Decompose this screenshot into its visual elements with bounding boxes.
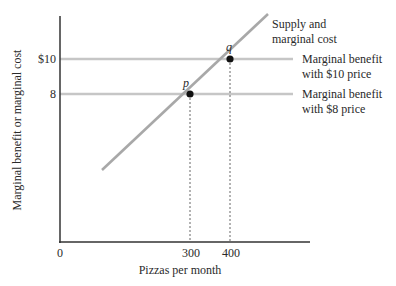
supply-label-line2: marginal cost (272, 32, 337, 46)
supply-line (102, 14, 268, 170)
x-tick-400: 400 (222, 246, 240, 260)
point-q (226, 55, 233, 62)
x-tick-0: 0 (57, 246, 63, 260)
y-axis-title: Marginal benefit or marginal cost (10, 49, 24, 211)
mb8-label-line1: Marginal benefit (302, 87, 383, 101)
x-axis-title: Pizzas per month (139, 263, 222, 277)
point-p-label: p (182, 76, 189, 90)
chart: p q $10 8 0 300 400 Pizzas per month Mar… (0, 0, 396, 286)
mb8-label-line2: with $8 price (302, 102, 365, 116)
mb10-label-line2: with $10 price (302, 67, 371, 81)
supply-label-line1: Supply and (272, 17, 326, 31)
y-tick-8: 8 (50, 87, 56, 101)
point-p (186, 90, 193, 97)
mb10-label-line1: Marginal benefit (302, 52, 383, 66)
point-q-label: q (226, 40, 232, 54)
x-tick-300: 300 (182, 246, 200, 260)
y-tick-10: $10 (38, 52, 56, 66)
